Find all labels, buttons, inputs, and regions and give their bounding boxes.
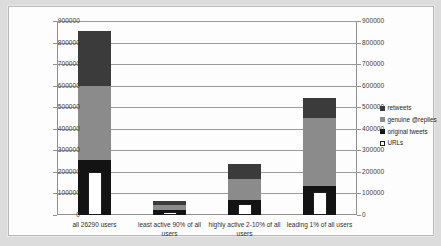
- axis-tick-mark: [357, 129, 361, 130]
- bar-stack: [78, 31, 111, 215]
- y-axis-right-tick: 400000: [362, 126, 408, 133]
- axis-tick-mark: [53, 172, 57, 173]
- y-axis-right-tick: 900000: [362, 18, 408, 25]
- y-axis-left-tick: 800000: [36, 40, 80, 47]
- bar-stack: [153, 201, 186, 215]
- legend-swatch-urls: [380, 141, 385, 146]
- bar-stack: [303, 98, 336, 215]
- bar-segment-retweets: [303, 98, 336, 118]
- bar-segment-replies: [303, 118, 336, 186]
- bar-segment-retweets: [78, 31, 111, 86]
- y-axis-right-tick: 800000: [362, 40, 408, 47]
- y-axis-left-tick: 500000: [36, 104, 80, 111]
- bar-stack: [228, 164, 261, 215]
- y-axis-right-tick: 600000: [362, 83, 408, 90]
- y-axis-left-tick: 900000: [36, 18, 80, 25]
- y-axis-right-tick: 0: [362, 212, 408, 219]
- bar-segment-replies: [228, 179, 261, 199]
- axis-tick-mark: [53, 43, 57, 44]
- axis-tick-mark: [53, 64, 57, 65]
- bar-group: [57, 21, 357, 215]
- x-axis-label: all 26290 users: [57, 220, 133, 229]
- bar-segment-replies: [153, 205, 186, 209]
- axis-tick-mark: [357, 86, 361, 87]
- axis-tick-mark: [53, 215, 57, 216]
- y-axis-left-tick: 0: [36, 212, 80, 219]
- y-axis-left-tick: 700000: [36, 61, 80, 68]
- axis-tick-mark: [53, 107, 57, 108]
- axis-tick-mark: [53, 21, 57, 22]
- axis-tick-mark: [53, 129, 57, 130]
- x-axis-label: leading 1% of all users: [282, 220, 358, 229]
- axis-tick-mark: [357, 215, 361, 216]
- bar-segment-urls: [313, 192, 327, 215]
- axis-tick-mark: [53, 86, 57, 87]
- legend-item: genuine @replies: [380, 117, 438, 123]
- y-axis-right-tick: 200000: [362, 169, 408, 176]
- y-axis-left-tick: 200000: [36, 169, 80, 176]
- x-axis-label: highly active 2-10% of all users: [207, 220, 283, 239]
- axis-tick-mark: [357, 193, 361, 194]
- plot-area: [57, 21, 357, 215]
- y-axis-left-tick: 100000: [36, 190, 80, 197]
- bar-segment-urls: [238, 204, 252, 215]
- y-axis-right-tick: 700000: [362, 61, 408, 68]
- axis-tick-mark: [357, 43, 361, 44]
- legend-item: URLs: [380, 140, 438, 146]
- axis-tick-mark: [357, 107, 361, 108]
- bar-segment-urls: [88, 172, 102, 215]
- y-axis-left-tick: 400000: [36, 126, 80, 133]
- chart-page: retweetsgenuine @repliesoriginal tweetsU…: [0, 0, 441, 246]
- y-axis-right-tick: 100000: [362, 190, 408, 197]
- x-axis-label: least active 90% of all users: [132, 220, 208, 239]
- bar-segment-replies: [78, 86, 111, 160]
- axis-tick-mark: [357, 64, 361, 65]
- y-axis-right-tick: 500000: [362, 104, 408, 111]
- axis-tick-mark: [53, 193, 57, 194]
- y-axis-right-tick: 300000: [362, 147, 408, 154]
- axis-tick-mark: [357, 172, 361, 173]
- legend-label: genuine @replies: [388, 117, 437, 123]
- legend-label: URLs: [388, 140, 404, 146]
- y-axis-left-tick: 600000: [36, 83, 80, 90]
- chart-panel: retweetsgenuine @repliesoriginal tweetsU…: [8, 6, 434, 236]
- bar-segment-retweets: [153, 201, 186, 205]
- axis-tick-mark: [53, 150, 57, 151]
- axis-tick-mark: [357, 150, 361, 151]
- bar-segment-urls: [163, 212, 177, 215]
- y-axis-left-tick: 300000: [36, 147, 80, 154]
- legend-swatch-replies: [380, 117, 385, 122]
- bar-segment-retweets: [228, 164, 261, 179]
- axis-tick-mark: [357, 21, 361, 22]
